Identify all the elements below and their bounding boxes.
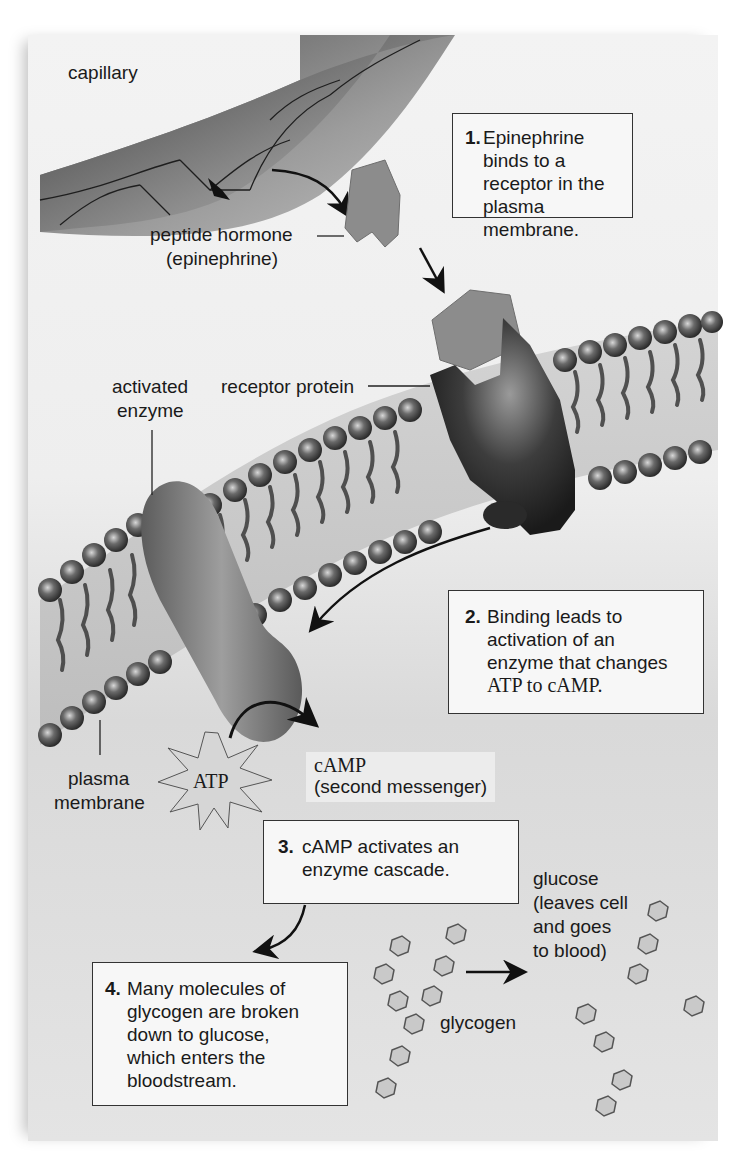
step-4-line: glycogen are broken — [127, 1000, 299, 1023]
step-2-line: Binding leads to — [487, 605, 668, 628]
label-plasma: plasma — [68, 768, 129, 790]
step-3-line: cAMP activates an — [302, 835, 459, 858]
glycogen-molecules — [374, 924, 466, 1098]
step-2-number: 2. — [465, 605, 481, 628]
label-peptide-hormone: peptide hormone — [150, 224, 293, 246]
label-camp: cAMP — [314, 754, 487, 776]
arrow-cascade-to-glycogen — [262, 905, 305, 950]
label-epinephrine: (epinephrine) — [166, 248, 278, 270]
label-activated: activated — [112, 376, 188, 398]
step-4-line: down to glucose, — [127, 1023, 299, 1046]
step-3-line: enzyme cascade. — [302, 858, 459, 881]
step-2-line: ATP to cAMP. — [487, 674, 668, 697]
label-membrane: membrane — [54, 792, 145, 814]
label-receptor-protein: receptor protein — [221, 376, 354, 398]
step-4-line: which enters the — [127, 1046, 299, 1069]
label-glucose-leaves: (leaves cell — [533, 892, 628, 914]
label-glucose: glucose — [533, 868, 599, 890]
step-4-number: 4. — [105, 977, 121, 1000]
step-3-box: 3. cAMP activates an enzyme cascade. — [263, 820, 519, 904]
label-enzyme: enzyme — [117, 400, 184, 422]
step-4-box: 4. Many molecules of glycogen are broken… — [92, 962, 348, 1106]
label-glucose-goes: and goes — [533, 916, 611, 938]
label-camp-tag: cAMP (second messenger) — [306, 752, 495, 802]
step-4-text: Many molecules of glycogen are broken do… — [127, 977, 299, 1092]
peptide-hormone-shape — [345, 160, 400, 247]
label-capillary: capillary — [68, 62, 138, 84]
step-2-line: enzyme that changes — [487, 651, 668, 674]
step-2-text: Binding leads to activation of an enzyme… — [487, 605, 668, 697]
label-glycogen: glycogen — [440, 1012, 516, 1034]
label-atp: ATP — [193, 770, 229, 792]
label-second-messenger: (second messenger) — [314, 776, 487, 798]
step-3-number: 3. — [278, 835, 294, 858]
step-1-box: 1. Epinephrine binds to a receptor in th… — [452, 113, 633, 218]
step-1-text: Epinephrine binds to a receptor in the p… — [483, 126, 632, 241]
arrow-hormone-to-receptor — [420, 248, 440, 285]
step-1-line: receptor in the plasma — [483, 172, 632, 218]
label-glucose-blood: to blood) — [533, 940, 607, 962]
step-3-text: cAMP activates an enzyme cascade. — [302, 835, 459, 881]
step-1-line: Epinephrine binds to a — [483, 126, 632, 172]
step-4-line: bloodstream. — [127, 1069, 299, 1092]
step-1-number: 1. — [465, 126, 481, 149]
step-4-line: Many molecules of — [127, 977, 299, 1000]
step-2-box: 2. Binding leads to activation of an enz… — [448, 590, 704, 714]
step-2-line: activation of an — [487, 628, 668, 651]
step-1-line: membrane. — [483, 218, 632, 241]
